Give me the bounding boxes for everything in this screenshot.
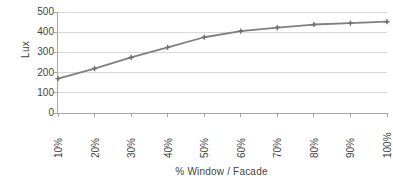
x-axis-tick-label: 90% xyxy=(345,114,356,158)
y-axis-tick-label: 300 xyxy=(20,47,54,57)
data-point-marker xyxy=(129,55,134,60)
x-axis-tick-label: 40% xyxy=(163,114,174,158)
x-axis-tick-label: 20% xyxy=(90,114,101,158)
data-point-marker xyxy=(92,66,97,71)
x-axis-tick-label: 50% xyxy=(199,114,210,158)
data-point-marker xyxy=(202,35,207,40)
data-point-marker xyxy=(165,45,170,50)
x-axis-tick-label: 70% xyxy=(272,114,283,158)
y-axis-tick-labels: 0100200300400500 xyxy=(20,6,54,120)
data-point-marker xyxy=(384,19,389,24)
y-axis-tick-label: 100 xyxy=(20,88,54,98)
data-point-marker xyxy=(238,29,243,34)
plot-svg xyxy=(58,12,387,113)
series-line-lux xyxy=(58,22,387,79)
data-point-marker xyxy=(348,21,353,26)
y-axis-tick-label: 0 xyxy=(20,108,54,118)
line-chart: Lux 0100200300400500 10%20%30%40%50%60%7… xyxy=(0,0,393,186)
y-axis-tick-label: 400 xyxy=(20,27,54,37)
x-axis-tick-label: 100% xyxy=(382,114,393,158)
gridlines xyxy=(58,12,387,113)
series-markers-lux xyxy=(55,19,389,81)
x-axis-ticks xyxy=(54,12,387,117)
y-axis-tick-label: 500 xyxy=(20,7,54,17)
plot-area xyxy=(57,12,387,113)
y-axis-tick-label: 200 xyxy=(20,68,54,78)
x-axis-tick-label: 80% xyxy=(309,114,320,158)
x-axis-tick-label: 30% xyxy=(126,114,137,158)
x-axis-title: % Window / Facade xyxy=(57,166,386,177)
x-axis-tick-label: 60% xyxy=(236,114,247,158)
x-axis-tick-labels: 10%20%30%40%50%60%70%80%90%100% xyxy=(57,116,386,160)
data-point-marker xyxy=(55,76,60,81)
data-point-marker xyxy=(311,22,316,27)
data-point-marker xyxy=(275,25,280,30)
x-axis-tick-label: 10% xyxy=(53,114,64,158)
